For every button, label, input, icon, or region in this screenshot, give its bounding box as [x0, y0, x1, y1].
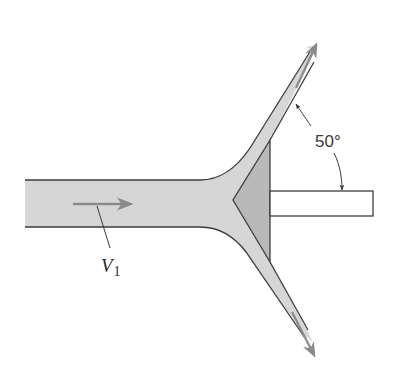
upper-sheet-outer-edge — [270, 62, 314, 140]
angle-arc-lower — [334, 153, 342, 190]
upper-flow-arrow-icon — [296, 45, 316, 88]
angle-label: 50° — [315, 132, 341, 151]
support-rod — [270, 191, 373, 216]
jet-deflector-diagram: V1 50° — [0, 0, 397, 375]
angle-arc-upper — [296, 104, 311, 126]
lower-flow-arrow-icon — [292, 312, 314, 355]
velocity-label: V1 — [101, 255, 121, 279]
